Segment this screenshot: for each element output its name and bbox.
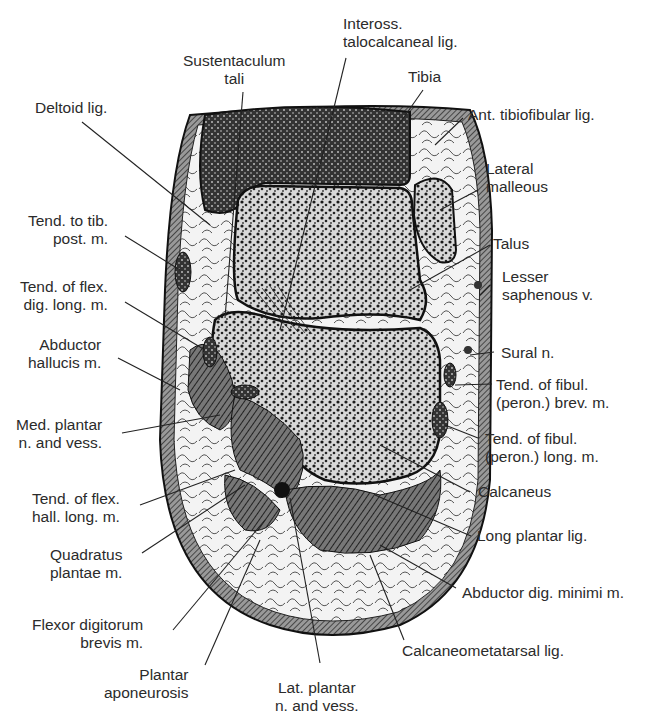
label-abductor-hallucis: Abductor hallucis m. bbox=[28, 336, 101, 372]
label-long-plantar-lig: Long plantar lig. bbox=[477, 527, 587, 545]
flex-dig-long-tendon bbox=[203, 337, 217, 367]
sural-nerve bbox=[464, 346, 472, 354]
label-abductor-dig-minimi: Abductor dig. minimi m. bbox=[462, 584, 624, 602]
lesser-saphenous-vein bbox=[474, 281, 482, 289]
label-sural-n: Sural n. bbox=[501, 344, 554, 362]
fibul-brev-tendon bbox=[444, 363, 456, 387]
label-calcaneometatarsal-lig: Calcaneometatarsal lig. bbox=[402, 642, 564, 660]
label-inteross-talocalcaneal-lig: Inteross. talocalcaneal lig. bbox=[343, 15, 458, 51]
lat-plantar-vessel bbox=[274, 482, 290, 498]
label-tend-flex-hall-long: Tend. of flex. hall. long. m. bbox=[32, 490, 120, 526]
label-deltoid-lig: Deltoid lig. bbox=[35, 99, 107, 117]
label-talus: Talus bbox=[493, 235, 529, 253]
ankle-coronal-section-figure: Sustentaculum tali Inteross. talocalcane… bbox=[0, 0, 655, 723]
fibul-long-tendon bbox=[432, 402, 448, 438]
label-calcaneus: Calcaneus bbox=[478, 483, 551, 501]
label-lat-plantar: Lat. plantar n. and vess. bbox=[275, 679, 359, 715]
flex-hall-long-tendon bbox=[231, 385, 259, 399]
label-sustentaculum-tali: Sustentaculum tali bbox=[183, 52, 286, 88]
label-quadratus-plantae: Quadratus plantae m. bbox=[50, 546, 122, 582]
label-tend-flex-dig-long: Tend. of flex. dig. long. m. bbox=[20, 278, 108, 314]
label-tend-fibul-long: Tend. of fibul. (peron.) long. m. bbox=[485, 430, 599, 466]
label-tibia: Tibia bbox=[408, 68, 441, 86]
label-ant-tibiofibular-lig: Ant. tibiofibular lig. bbox=[468, 106, 595, 124]
label-lesser-saphenous-v: Lesser saphenous v. bbox=[502, 268, 593, 304]
label-med-plantar: Med. plantar n. and vess. bbox=[16, 416, 102, 452]
label-flexor-digitorum-brevis: Flexor digitorum brevis m. bbox=[32, 616, 143, 652]
label-plantar-aponeurosis: Plantar aponeurosis bbox=[104, 666, 188, 702]
label-tend-fibul-brev: Tend. of fibul. (peron.) brev. m. bbox=[496, 376, 609, 412]
label-lateral-malleous: Lateral malleous bbox=[486, 160, 548, 196]
tib-post-tendon bbox=[175, 252, 191, 292]
label-tend-tib-post: Tend. to tib. post. m. bbox=[28, 212, 108, 248]
